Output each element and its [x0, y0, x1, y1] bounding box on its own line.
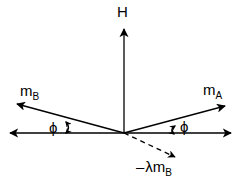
label-moment-b: mB: [20, 83, 39, 102]
vector-moment-b: [17, 104, 124, 133]
label-exchange-sub: B: [165, 167, 172, 178]
label-moment-a: mA: [203, 82, 222, 101]
angle-arc-left: [66, 122, 69, 133]
label-exchange-field: –λmB: [136, 159, 172, 178]
label-field-h: H: [117, 4, 128, 20]
label-angle-left-text: ϕ: [49, 119, 57, 136]
label-angle-right: ϕ: [180, 119, 188, 135]
vector-exchange-field: [124, 133, 175, 157]
label-angle-right-text: ϕ: [180, 118, 188, 135]
label-moment-a-text: m: [203, 81, 216, 98]
vector-moment-a: [124, 106, 225, 133]
label-exchange-text: λm: [145, 158, 165, 175]
label-field-h-text: H: [117, 3, 128, 20]
label-exchange-minus: –: [136, 158, 144, 175]
label-moment-b-text: m: [20, 82, 33, 99]
label-moment-a-sub: A: [216, 90, 223, 101]
figure-canvas: H mA mB ϕ ϕ –λmB: [0, 0, 243, 186]
label-angle-left: ϕ: [49, 120, 57, 136]
label-moment-b-sub: B: [33, 91, 40, 102]
